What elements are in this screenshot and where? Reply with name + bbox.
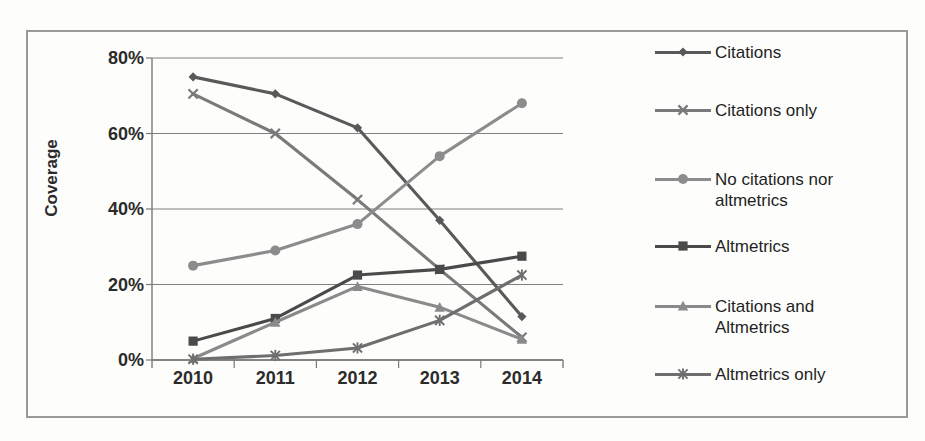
series-line <box>193 77 522 317</box>
legend-marker <box>655 296 711 316</box>
legend-marker <box>655 169 711 189</box>
square-marker-icon <box>517 252 526 261</box>
chart-legend: CitationsCitations onlyNo citations nor … <box>655 34 890 394</box>
series-line <box>193 256 522 341</box>
legend-item[interactable]: Citations only <box>655 100 817 121</box>
circle-marker-icon <box>673 169 693 189</box>
diamond-marker-icon <box>678 47 687 56</box>
x-marker-icon <box>673 100 693 120</box>
square-marker-icon <box>353 270 362 279</box>
legend-label: No citations nor altmetrics <box>715 169 833 211</box>
diamond-marker-icon <box>271 89 280 98</box>
square-marker-icon <box>673 236 693 256</box>
circle-marker-icon <box>270 246 280 256</box>
legend-item[interactable]: Altmetrics <box>655 236 790 257</box>
circle-marker-icon <box>188 261 198 271</box>
square-marker-icon <box>435 265 444 274</box>
legend-item[interactable]: Altmetrics only <box>655 364 826 385</box>
circle-marker-icon <box>517 98 527 108</box>
circle-marker-icon <box>435 151 445 161</box>
legend-label: Altmetrics <box>715 236 790 257</box>
legend-item[interactable]: Citations <box>655 42 781 63</box>
legend-marker <box>655 236 711 256</box>
square-marker-icon <box>189 337 198 346</box>
legend-label: Citations only <box>715 100 817 121</box>
legend-label: Citations <box>715 42 781 63</box>
star-marker-icon <box>673 364 693 384</box>
legend-marker <box>655 100 711 120</box>
triangle-marker-icon <box>678 301 688 311</box>
legend-label: Altmetrics only <box>715 364 826 385</box>
triangle-marker-icon <box>673 296 693 316</box>
legend-label: Citations and Altmetrics <box>715 296 814 338</box>
legend-item[interactable]: No citations nor altmetrics <box>655 169 833 211</box>
circle-marker-icon <box>353 219 363 229</box>
square-marker-icon <box>678 241 687 250</box>
diamond-marker-icon <box>189 72 198 81</box>
diamond-marker-icon <box>673 42 693 62</box>
legend-item[interactable]: Citations and Altmetrics <box>655 296 814 338</box>
legend-marker <box>655 42 711 62</box>
circle-marker-icon <box>678 174 688 184</box>
legend-marker <box>655 364 711 384</box>
